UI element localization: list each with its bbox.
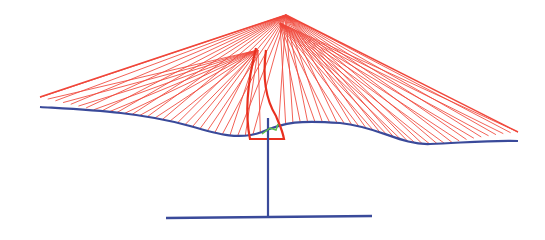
fan-line: [286, 15, 452, 142]
fan-line: [63, 50, 258, 103]
base-line: [166, 216, 372, 218]
fan-line: [258, 50, 260, 133]
fan-line: [117, 15, 286, 113]
fan-line: [155, 50, 258, 118]
fan-line: [280, 23, 459, 141]
fan-line: [280, 23, 373, 130]
fan-line: [178, 15, 286, 123]
diagram-canvas: [0, 0, 545, 240]
fan-line: [280, 23, 489, 136]
fan-lines-right: [279, 15, 518, 144]
fan-line: [55, 15, 286, 101]
fan-line: [286, 15, 496, 135]
wireframe-drawing: [0, 0, 545, 240]
fan-line: [163, 15, 286, 119]
